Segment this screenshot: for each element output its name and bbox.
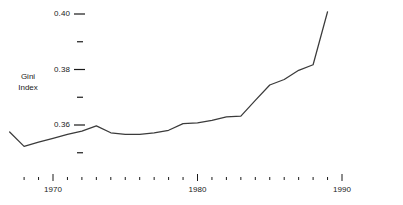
y-axis-title-line-2: Index [6, 83, 50, 94]
y-tick-label-040: 0.40 [36, 9, 70, 19]
x-tick-label-1980: 1980 [178, 185, 218, 195]
chart-plot-area [0, 0, 403, 205]
x-axis-tick-marks [24, 174, 342, 181]
gini-index-line-chart: Gini Index 0.40 0.38 0.36 1970 1980 1990 [0, 0, 403, 205]
y-axis-title: Gini Index [6, 72, 50, 93]
x-tick-label-1990: 1990 [322, 185, 362, 195]
y-tick-label-036: 0.36 [36, 120, 70, 130]
x-tick-label-1970: 1970 [33, 185, 73, 195]
y-tick-label-038: 0.38 [36, 65, 70, 75]
